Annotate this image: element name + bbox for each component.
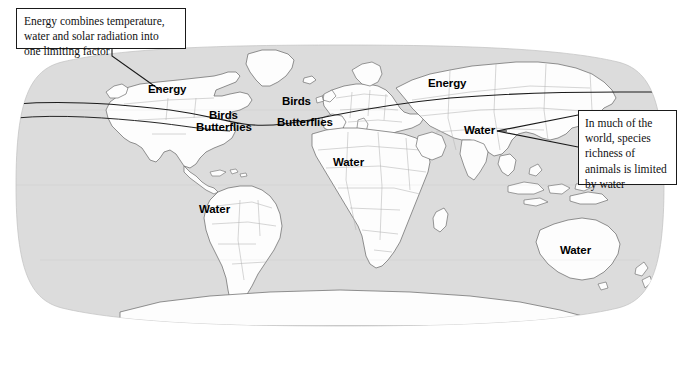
- map-label-butterflies-europe: Butterflies: [277, 117, 333, 129]
- map-label-water-africa: Water: [333, 157, 364, 169]
- map-label-butterflies-north-america: Butterflies: [196, 122, 252, 134]
- world-map-figure: Energy combines temperature, water and s…: [0, 0, 680, 371]
- map-label-water-australia: Water: [560, 245, 591, 257]
- map-label-birds-north-america: Birds: [209, 110, 238, 122]
- map-label-water-south-america: Water: [199, 204, 230, 216]
- water-callout-box: In much of the world, species richness o…: [578, 110, 677, 185]
- map-label-energy-eurasia: Energy: [428, 78, 466, 90]
- map-label-water-asia: Water: [464, 125, 495, 137]
- map-label-energy-north-america: Energy: [148, 84, 186, 96]
- energy-callout-box: Energy combines temperature, water and s…: [16, 8, 186, 49]
- map-label-birds-europe: Birds: [282, 96, 311, 108]
